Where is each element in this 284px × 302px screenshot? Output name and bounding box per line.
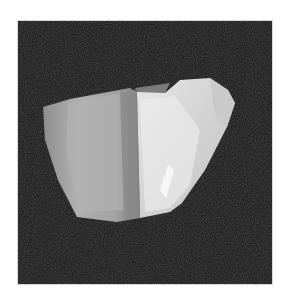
crystal-render xyxy=(0,0,284,302)
